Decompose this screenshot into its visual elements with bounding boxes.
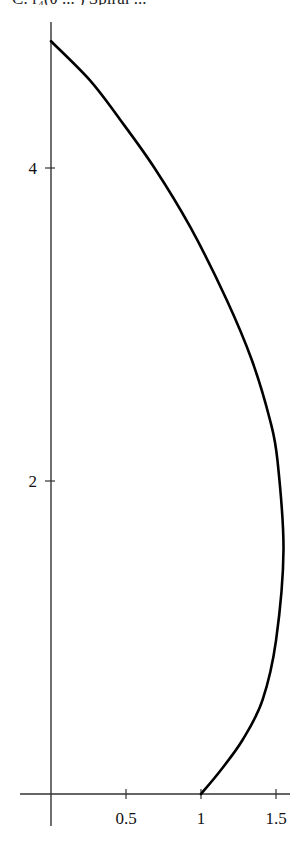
data-curve (51, 41, 284, 794)
axis-ticks: 0.511.524 (29, 159, 287, 828)
plot-area: 0.511.524 (0, 0, 304, 843)
y-tick-label: 4 (29, 159, 38, 178)
x-tick-label: 0.5 (115, 809, 136, 828)
x-tick-label: 1.5 (265, 809, 286, 828)
axes (20, 22, 290, 826)
y-tick-label: 2 (29, 472, 38, 491)
x-tick-label: 1 (197, 809, 206, 828)
